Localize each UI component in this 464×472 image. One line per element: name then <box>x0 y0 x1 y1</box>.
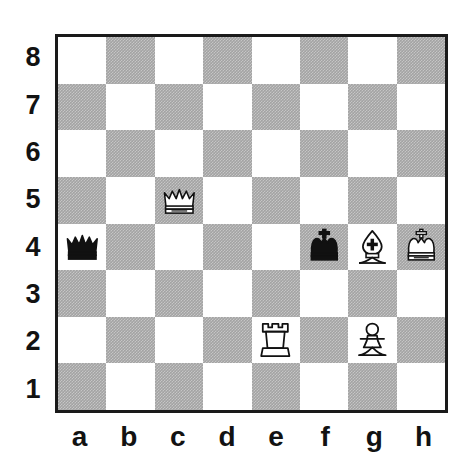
square-b1[interactable] <box>106 363 154 410</box>
square-h6[interactable] <box>397 130 445 177</box>
file-label-e: e <box>252 414 301 460</box>
square-d2[interactable] <box>203 317 251 364</box>
square-d7[interactable] <box>203 84 251 131</box>
square-g8[interactable] <box>348 37 396 84</box>
square-d3[interactable] <box>203 270 251 317</box>
chess-board[interactable] <box>55 34 448 413</box>
rank-label-7: 7 <box>16 81 50 128</box>
square-c5[interactable] <box>155 177 203 224</box>
square-f3[interactable] <box>300 270 348 317</box>
rank-label-4: 4 <box>16 224 50 271</box>
square-b6[interactable] <box>106 130 154 177</box>
square-c8[interactable] <box>155 37 203 84</box>
square-a7[interactable] <box>58 84 106 131</box>
chess-diagram: 87654321 abcdefgh <box>0 0 464 472</box>
square-h7[interactable] <box>397 84 445 131</box>
rank-label-column: 87654321 <box>16 34 50 413</box>
square-b3[interactable] <box>106 270 154 317</box>
rank-label-1: 1 <box>16 366 50 413</box>
file-label-f: f <box>301 414 350 460</box>
square-d5[interactable] <box>203 177 251 224</box>
square-a3[interactable] <box>58 270 106 317</box>
square-h8[interactable] <box>397 37 445 84</box>
square-c7[interactable] <box>155 84 203 131</box>
square-e3[interactable] <box>252 270 300 317</box>
square-h5[interactable] <box>397 177 445 224</box>
rank-label-6: 6 <box>16 129 50 176</box>
square-f7[interactable] <box>300 84 348 131</box>
square-d8[interactable] <box>203 37 251 84</box>
square-d4[interactable] <box>203 224 251 271</box>
square-f2[interactable] <box>300 317 348 364</box>
square-h1[interactable] <box>397 363 445 410</box>
square-a5[interactable] <box>58 177 106 224</box>
square-a2[interactable] <box>58 317 106 364</box>
white-king[interactable] <box>397 224 445 271</box>
square-g3[interactable] <box>348 270 396 317</box>
square-g2[interactable] <box>348 317 396 364</box>
square-c4[interactable] <box>155 224 203 271</box>
square-e6[interactable] <box>252 130 300 177</box>
rank-label-8: 8 <box>16 34 50 81</box>
rank-label-5: 5 <box>16 176 50 223</box>
square-e4[interactable] <box>252 224 300 271</box>
black-king[interactable] <box>300 224 348 271</box>
square-b4[interactable] <box>106 224 154 271</box>
white-pawn[interactable] <box>348 317 396 364</box>
square-c6[interactable] <box>155 130 203 177</box>
square-a4[interactable] <box>58 224 106 271</box>
square-a1[interactable] <box>58 363 106 410</box>
file-label-g: g <box>350 414 399 460</box>
square-g7[interactable] <box>348 84 396 131</box>
square-a6[interactable] <box>58 130 106 177</box>
square-g6[interactable] <box>348 130 396 177</box>
rank-label-2: 2 <box>16 318 50 365</box>
square-b5[interactable] <box>106 177 154 224</box>
white-queen[interactable] <box>155 177 203 224</box>
file-label-d: d <box>202 414 251 460</box>
file-label-row: abcdefgh <box>55 414 448 460</box>
file-label-c: c <box>153 414 202 460</box>
square-h2[interactable] <box>397 317 445 364</box>
square-g1[interactable] <box>348 363 396 410</box>
square-d6[interactable] <box>203 130 251 177</box>
square-e8[interactable] <box>252 37 300 84</box>
square-h3[interactable] <box>397 270 445 317</box>
square-e2[interactable] <box>252 317 300 364</box>
square-b2[interactable] <box>106 317 154 364</box>
square-f4[interactable] <box>300 224 348 271</box>
file-label-a: a <box>55 414 104 460</box>
square-f5[interactable] <box>300 177 348 224</box>
board-squares <box>58 37 445 410</box>
square-f8[interactable] <box>300 37 348 84</box>
rank-label-3: 3 <box>16 271 50 318</box>
square-c2[interactable] <box>155 317 203 364</box>
square-g5[interactable] <box>348 177 396 224</box>
square-a8[interactable] <box>58 37 106 84</box>
square-d1[interactable] <box>203 363 251 410</box>
file-label-h: h <box>399 414 448 460</box>
white-bishop[interactable] <box>348 224 396 271</box>
square-h4[interactable] <box>397 224 445 271</box>
square-e7[interactable] <box>252 84 300 131</box>
square-c3[interactable] <box>155 270 203 317</box>
square-f6[interactable] <box>300 130 348 177</box>
square-e1[interactable] <box>252 363 300 410</box>
square-f1[interactable] <box>300 363 348 410</box>
white-rook[interactable] <box>252 317 300 364</box>
square-g4[interactable] <box>348 224 396 271</box>
square-c1[interactable] <box>155 363 203 410</box>
square-e5[interactable] <box>252 177 300 224</box>
black-queen[interactable] <box>58 224 106 271</box>
file-label-b: b <box>104 414 153 460</box>
square-b8[interactable] <box>106 37 154 84</box>
square-b7[interactable] <box>106 84 154 131</box>
